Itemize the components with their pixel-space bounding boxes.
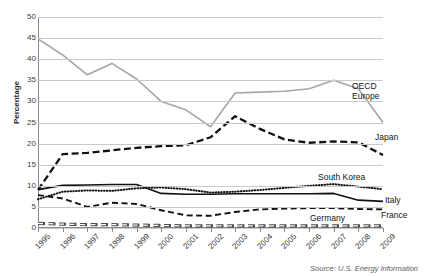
gridline [38, 80, 383, 81]
series-label-france: France [381, 211, 407, 221]
y-tick-10: 10 [14, 182, 36, 190]
y-tick-35: 35 [14, 76, 36, 84]
oecd-label-line2: Europe [352, 91, 379, 101]
y-tick-15: 15 [14, 161, 36, 169]
gridline [38, 207, 383, 208]
plot-area [38, 17, 383, 228]
gridline [38, 59, 383, 60]
x-tickmark [383, 228, 384, 232]
y-tick-20: 20 [14, 140, 36, 148]
gridline [38, 165, 383, 166]
y-tick-40: 40 [14, 55, 36, 63]
y-axis-tick-labels: 05101520253035404550 [10, 0, 36, 276]
series-label-germany: Germany [310, 214, 345, 224]
gridline [38, 144, 383, 145]
line-chart: Percentage 05101520253035404550 19951996… [0, 0, 424, 276]
y-tick-25: 25 [14, 119, 36, 127]
y-tick-30: 30 [14, 97, 36, 105]
gridline [38, 101, 383, 102]
y-tick-50: 50 [14, 13, 36, 21]
y-tick-5: 5 [14, 203, 36, 211]
series-label-japan: Japan [375, 133, 398, 143]
series-label-italy: Italy [385, 196, 401, 206]
gridline [38, 38, 383, 39]
y-tick-0: 0 [14, 224, 36, 232]
gridline [38, 186, 383, 187]
gridline [38, 17, 383, 18]
series-label-oecd-europe: OECD Europe [352, 82, 379, 101]
oecd-label-line1: OECD [352, 81, 377, 91]
series-label-south-korea: South Korea [318, 173, 365, 183]
series-path-oecd-europe [38, 39, 383, 127]
gridline [38, 123, 383, 124]
y-tick-45: 45 [14, 34, 36, 42]
source-note: Source: U.S. Energy Information [310, 264, 418, 273]
